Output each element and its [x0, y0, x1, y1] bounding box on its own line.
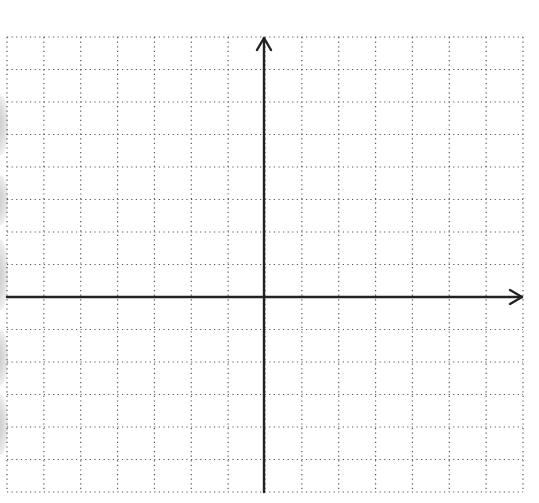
coordinate-plane — [0, 0, 539, 503]
